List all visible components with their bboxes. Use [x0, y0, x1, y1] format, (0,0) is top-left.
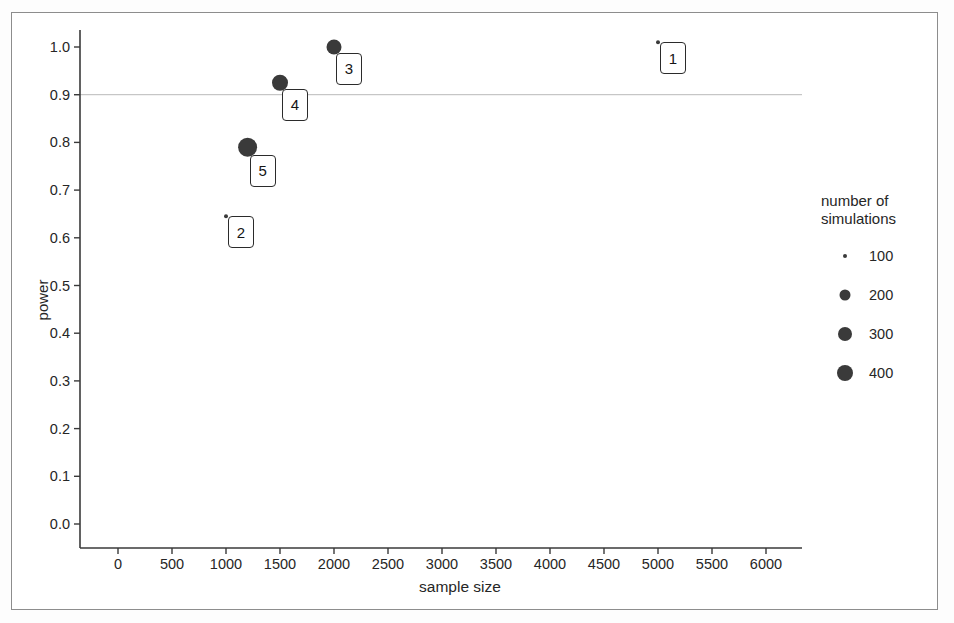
x-tick-label: 1500 [264, 556, 296, 572]
figure-canvas: 0.00.10.20.30.40.50.60.70.80.91.00500100… [0, 0, 954, 623]
plot-area: 0.00.10.20.30.40.50.60.70.80.91.00500100… [0, 0, 954, 623]
legend-marker-icon [838, 327, 852, 341]
point-callout-4[interactable]: 4 [282, 89, 308, 121]
y-tick-label: 0.9 [28, 87, 70, 103]
x-axis-title: sample size [419, 578, 501, 596]
x-tick-label: 1000 [210, 556, 242, 572]
point-callout-3[interactable]: 3 [336, 53, 362, 85]
legend-item: 200 [821, 283, 941, 307]
legend-marker-icon [840, 290, 851, 301]
legend-item: 100 [821, 244, 941, 268]
chart-svg [0, 0, 954, 623]
point-callout-1[interactable]: 1 [660, 42, 686, 74]
x-tick-label: 500 [160, 556, 184, 572]
y-tick-label: 0.7 [28, 182, 70, 198]
legend-title: number of simulations [821, 192, 941, 229]
y-tick-label: 0.8 [28, 134, 70, 150]
x-tick-label: 0 [114, 556, 122, 572]
x-tick-label: 6000 [750, 556, 782, 572]
y-tick-label: 0.2 [28, 421, 70, 437]
x-tick-label: 4500 [588, 556, 620, 572]
y-tick-label: 0.1 [28, 468, 70, 484]
y-tick-label: 0.4 [28, 325, 70, 341]
x-tick-label: 3500 [480, 556, 512, 572]
legend-label: 100 [869, 248, 893, 264]
point-callout-5[interactable]: 5 [250, 155, 276, 187]
x-tick-label: 2000 [318, 556, 350, 572]
x-tick-label: 4000 [534, 556, 566, 572]
y-tick-label: 0.0 [28, 516, 70, 532]
y-tick-label: 0.6 [28, 230, 70, 246]
x-tick-label: 5000 [642, 556, 674, 572]
legend-item: 400 [821, 361, 941, 385]
legend-item: 300 [821, 322, 941, 346]
x-tick-label: 2500 [372, 556, 404, 572]
y-axis-title: power [34, 280, 51, 321]
legend-marker-icon [837, 365, 853, 381]
point-callout-2[interactable]: 2 [228, 216, 254, 248]
size-legend: number of simulations 100200300400 [821, 192, 941, 229]
legend-label: 300 [869, 326, 893, 342]
legend-label: 200 [869, 287, 893, 303]
data-point-marker[interactable] [238, 138, 257, 157]
legend-label: 400 [869, 365, 893, 381]
y-tick-label: 1.0 [28, 39, 70, 55]
x-tick-label: 5500 [696, 556, 728, 572]
legend-marker-icon [843, 254, 847, 258]
x-tick-label: 3000 [426, 556, 458, 572]
y-tick-label: 0.3 [28, 373, 70, 389]
